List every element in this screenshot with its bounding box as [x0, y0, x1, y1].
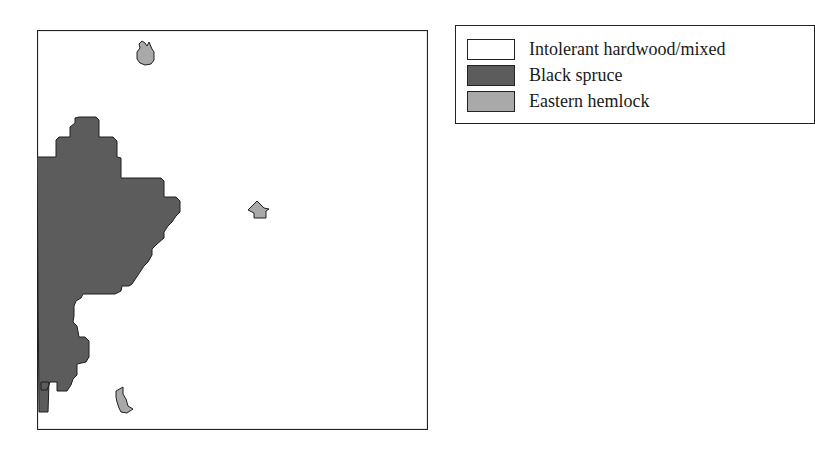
legend-item-eastern-hemlock: Eastern hemlock [467, 90, 649, 112]
legend: Intolerant hardwood/mixed Black spruce E… [455, 25, 815, 124]
map-frame [37, 30, 428, 430]
legend-swatch-black-spruce [467, 65, 515, 86]
legend-item-black-spruce: Black spruce [467, 64, 622, 86]
legend-label: Black spruce [529, 65, 622, 86]
legend-item-intolerant-hardwood: Intolerant hardwood/mixed [467, 38, 725, 60]
legend-swatch-intolerant-hardwood [467, 39, 515, 60]
forest-type-map [37, 30, 428, 430]
legend-label: Intolerant hardwood/mixed [529, 39, 725, 60]
legend-label: Eastern hemlock [529, 91, 649, 112]
legend-swatch-eastern-hemlock [467, 91, 515, 112]
